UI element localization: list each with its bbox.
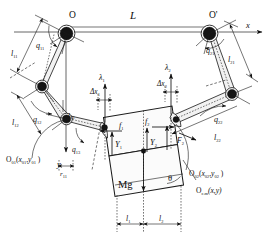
label-frame-Ocm: Oc.m(x,y) — [196, 186, 222, 196]
label-f1-sub: 1 — [121, 126, 123, 131]
label-q13-sub: 13 — [76, 150, 81, 155]
label-l12-sub: 12 — [14, 123, 18, 128]
label-Ocm-coords: (x,y) — [208, 186, 222, 195]
label-origin-O-prime: O' — [209, 10, 218, 20]
svg-text:λ2: λ2 — [164, 63, 171, 73]
label-span-L: L — [129, 9, 136, 21]
svg-text:l1: l1 — [126, 214, 130, 224]
label-q22-sub: 22 — [218, 120, 222, 125]
label-r11: r11 — [60, 170, 67, 179]
svg-text:q11: q11 — [36, 41, 44, 51]
right-elbow-joint — [226, 86, 252, 104]
svg-text:O02(x02,y02 ): O02(x02,y02 ) — [189, 169, 224, 179]
svg-text:O01(x01,y01 ): O01(x01,y01 ) — [6, 155, 41, 165]
label-lambda1: λ1 — [98, 73, 105, 83]
label-l2-sub: 2 — [161, 219, 163, 224]
label-l21-sub: 21 — [230, 60, 234, 65]
angle-arc-q12 — [31, 101, 52, 114]
label-lambda1-sub: 1 — [102, 78, 104, 83]
svg-text:q13: q13 — [72, 145, 81, 155]
angle-arc-q11 — [49, 26, 57, 48]
svg-text:q22: q22 — [214, 115, 222, 125]
label-q12: q12 — [33, 115, 41, 125]
dimension-l21 — [224, 21, 258, 82]
label-q22: q22 — [214, 115, 222, 125]
label-delta-x1: Δx1 — [89, 87, 100, 97]
label-lambda2-sub: 2 — [168, 68, 170, 73]
label-l1-sub: 1 — [128, 219, 130, 224]
svg-text:l13: l13 — [68, 111, 75, 120]
label-l2-bottom: l2 — [159, 214, 163, 224]
svg-text:l12: l12 — [12, 118, 19, 128]
svg-text:Oc.m(x,y): Oc.m(x,y) — [196, 186, 222, 196]
label-lambda2: λ2 — [164, 63, 171, 73]
svg-text:l2: l2 — [159, 214, 163, 224]
label-origin-O: O — [69, 10, 76, 20]
label-l1-bottom: l1 — [126, 214, 130, 224]
left-wrist-joint — [102, 125, 108, 131]
label-F2: F2 — [176, 136, 184, 146]
label-theta: θ — [168, 173, 172, 183]
svg-text:l22: l22 — [214, 133, 221, 143]
right-arm-links — [166, 31, 236, 127]
label-l11: l11 — [11, 49, 17, 59]
label-l13: l13 — [68, 111, 75, 120]
base-span-L — [66, 27, 209, 32]
right-wrist-joint — [173, 117, 179, 123]
svg-text:F2: F2 — [176, 136, 184, 146]
label-q11-sub: 11 — [40, 46, 44, 51]
label-l22-sub: 22 — [216, 138, 220, 143]
label-l22: l22 — [214, 133, 221, 143]
label-axis-x: x — [245, 20, 250, 30]
svg-text:Δx1: Δx1 — [89, 87, 100, 97]
figure-root: O O' L x y l11 q11 l12 q12 l13 q13 — [0, 0, 277, 246]
label-Y2-sub: 2 — [155, 143, 157, 148]
angle-arc-q13 — [76, 128, 84, 143]
label-Y1-sub: 1 — [120, 145, 122, 150]
svg-text:l21: l21 — [228, 55, 235, 65]
svg-text:r11: r11 — [60, 170, 67, 179]
label-frame-O01: O01(x01,y01 ) — [6, 155, 41, 165]
leader-O01 — [32, 120, 64, 158]
svg-text:l11: l11 — [11, 49, 17, 59]
label-axis-y: y — [56, 159, 61, 169]
label-q13: q13 — [72, 145, 81, 155]
svg-text:Δx2: Δx2 — [156, 79, 167, 89]
label-l11-sub: 11 — [13, 54, 17, 59]
label-F2-sub: 2 — [182, 141, 184, 146]
label-Mg: Mg — [118, 179, 133, 190]
label-q21-sub: 21 — [210, 51, 214, 56]
manipulator-diagram: O O' L x y l11 q11 l12 q12 l13 q13 — [0, 0, 277, 246]
label-frame-O02: O02(x02,y02 ) — [189, 169, 224, 179]
label-l12: l12 — [12, 118, 19, 128]
label-f2-sub: 2 — [147, 122, 149, 127]
label-q11: q11 — [36, 41, 44, 51]
svg-text:q12: q12 — [33, 115, 41, 125]
label-r11-sub: 11 — [63, 174, 67, 179]
label-l21: l21 — [228, 55, 235, 65]
label-q12-sub: 12 — [37, 120, 41, 125]
label-delta-x2-sub: 2 — [165, 84, 167, 89]
label-delta-x2: Δx2 — [156, 79, 167, 89]
svg-text:λ1: λ1 — [98, 73, 105, 83]
label-delta-x1-sub: 1 — [98, 92, 100, 97]
